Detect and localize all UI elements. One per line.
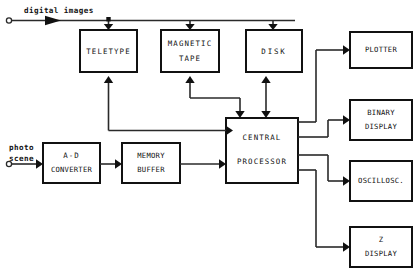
connection-cpu-disk [261, 76, 270, 118]
arrowhead-cpu-left-lower [219, 159, 226, 168]
block-teletype-label: TELETYPE [86, 47, 130, 56]
connection-cpu-to-binary-display [298, 115, 350, 137]
arrowhead-memory-buffer-input [115, 159, 122, 168]
connection-cpu-to-z-display [298, 170, 350, 252]
block-central-processor[interactable]: CENTRAL PROCESSOR [226, 118, 298, 183]
connection-digital-images-bus [6, 16, 295, 30]
block-magnetic-tape-label-2: TAPE [179, 54, 201, 63]
block-oscilloscope[interactable]: OSCILLOSC. [350, 161, 412, 201]
arrowhead-binary-display-input [343, 115, 350, 124]
connection-cpu-magnetic-tape [185, 76, 244, 118]
block-memory-buffer-label-1: MEMORY [137, 151, 165, 160]
block-oscilloscope-label: OSCILLOSC. [358, 176, 404, 185]
block-magnetic-tape-label-1: MAGNETIC [168, 39, 212, 48]
block-disk-label: DISK [261, 47, 286, 56]
terminal-photo-scene-input [6, 161, 11, 166]
block-disk[interactable]: DISK [246, 30, 302, 72]
block-central-processor-label-1: CENTRAL [243, 133, 282, 142]
block-diagram: digital images photo scene TELETYPE MAGN… [0, 0, 417, 279]
block-memory-buffer-label-2: BUFFER [137, 165, 165, 174]
connection-ad-converter-to-memory-buffer [100, 159, 122, 168]
connection-cpu-to-teletype [104, 76, 233, 135]
arrowhead-plotter-input [343, 45, 350, 54]
terminal-digital-images-input [6, 18, 11, 23]
connection-memory-buffer-to-cpu [180, 159, 226, 168]
arrowhead-ad-converter-input [36, 159, 43, 168]
signal-label-scene: scene [9, 154, 34, 163]
block-memory-buffer[interactable]: MEMORY BUFFER [122, 143, 180, 183]
arrowhead-digital-images-flow [45, 16, 61, 25]
block-magnetic-tape[interactable]: MAGNETIC TAPE [161, 30, 219, 72]
block-binary-display-label-1: BINARY [367, 108, 395, 117]
connection-cpu-to-plotter [298, 45, 350, 122]
arrowhead-magnetic-tape-bottom [185, 76, 194, 83]
block-z-display-label-1: Z [379, 235, 384, 244]
block-z-display-label-2: DISPLAY [365, 249, 397, 258]
block-z-display[interactable]: Z DISPLAY [350, 227, 412, 267]
arrowhead-teletype-bottom [104, 76, 113, 83]
arrowhead-disk-bottom [261, 76, 270, 83]
arrowhead-z-display-input [343, 242, 350, 251]
arrowhead-cpu-top-left [235, 111, 244, 118]
block-plotter-label: PLOTTER [365, 45, 397, 54]
arrowhead-cpu-top-right [261, 111, 270, 118]
block-binary-display-label-2: DISPLAY [365, 122, 397, 131]
arrowhead-oscilloscope-input [343, 176, 350, 185]
block-ad-converter[interactable]: A-D CONVERTER [43, 143, 100, 183]
block-central-processor-label-2: PROCESSOR [237, 157, 287, 166]
block-binary-display[interactable]: BINARY DISPLAY [350, 100, 412, 140]
block-ad-converter-label-2: CONVERTER [51, 165, 93, 174]
block-ad-converter-label-1: A-D [63, 151, 80, 160]
block-plotter[interactable]: PLOTTER [350, 32, 412, 68]
signal-label-photo: photo [9, 143, 34, 152]
block-teletype[interactable]: TELETYPE [80, 30, 137, 72]
signal-label-digital-images: digital images [24, 6, 94, 15]
